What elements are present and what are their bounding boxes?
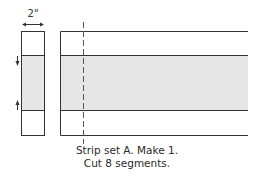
caption-line-2: Cut 8 segments. xyxy=(60,157,194,169)
cut-segment xyxy=(22,32,45,136)
width-label: 2" xyxy=(21,8,45,19)
width-dimension-arrow xyxy=(22,23,44,27)
caption-line-1: Strip set A. Make 1. xyxy=(60,144,194,156)
strip-set xyxy=(60,32,248,136)
pressing-arrow-down-icon xyxy=(16,56,20,66)
pressing-arrow-up-icon xyxy=(16,100,20,110)
